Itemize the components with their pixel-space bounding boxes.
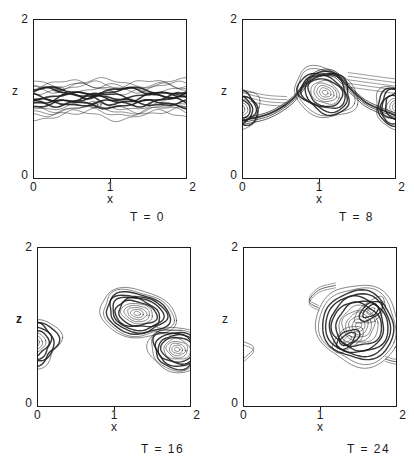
y-axis-label: z xyxy=(222,313,228,326)
y-tick-label-top: 2 xyxy=(6,13,28,26)
x-tick-label-0: 0 xyxy=(34,409,41,421)
contour-panel-t24: 2 0 z 0 1 2 x T = 24 xyxy=(243,247,397,407)
y-tick-label-top: 2 xyxy=(215,13,237,26)
contour-panel-t16: 2 0 z 0 1 2 x T = 16 xyxy=(37,247,191,407)
figure: 2 0 z 0 1 2 x T = 0 2 0 z 0 1 2 x T = 8 … xyxy=(0,0,414,461)
x-axis-label: x xyxy=(317,421,323,433)
x-axis-tick xyxy=(320,407,321,410)
y-axis-label: z xyxy=(221,85,227,98)
plot-frame xyxy=(244,248,397,407)
y-tick-label-bottom: 0 xyxy=(216,397,238,410)
contour-panel-t8: 2 0 z 0 1 2 x T = 8 xyxy=(242,19,396,179)
x-tick-label-2: 2 xyxy=(398,181,405,193)
y-axis-label: z xyxy=(12,85,18,98)
x-axis-label: x xyxy=(111,421,117,433)
contour-plot-t24 xyxy=(243,247,397,407)
contour-panel-t0: 2 0 z 0 1 2 x T = 0 xyxy=(33,19,187,179)
x-tick-label-2: 2 xyxy=(399,409,406,421)
y-axis-label: z xyxy=(16,313,22,326)
plot-frame xyxy=(38,248,191,407)
x-axis-label: x xyxy=(107,193,113,205)
y-tick-label-top: 2 xyxy=(10,241,32,254)
y-tick-label-bottom: 0 xyxy=(6,169,28,182)
y-tick-label-bottom: 0 xyxy=(10,397,32,410)
time-label-t0: T = 0 xyxy=(130,210,165,224)
x-tick-label-0: 0 xyxy=(239,181,246,193)
x-tick-label-2: 2 xyxy=(193,409,200,421)
y-tick-label-bottom: 0 xyxy=(215,169,237,182)
x-axis-tick xyxy=(110,179,111,182)
plot-frame xyxy=(243,20,396,179)
contour-plot-t16 xyxy=(37,247,191,407)
x-axis-tick xyxy=(319,179,320,182)
time-label-t16: T = 16 xyxy=(141,442,184,456)
x-tick-label-2: 2 xyxy=(189,181,196,193)
contour-plot-t8 xyxy=(242,19,396,179)
contour-plot-t0 xyxy=(33,19,187,179)
y-tick-label-top: 2 xyxy=(216,241,238,254)
x-axis-tick xyxy=(114,407,115,410)
time-label-t8: T = 8 xyxy=(339,210,374,224)
x-tick-label-0: 0 xyxy=(240,409,247,421)
x-tick-label-0: 0 xyxy=(30,181,37,193)
time-label-t24: T = 24 xyxy=(347,442,390,456)
x-axis-label: x xyxy=(316,193,322,205)
